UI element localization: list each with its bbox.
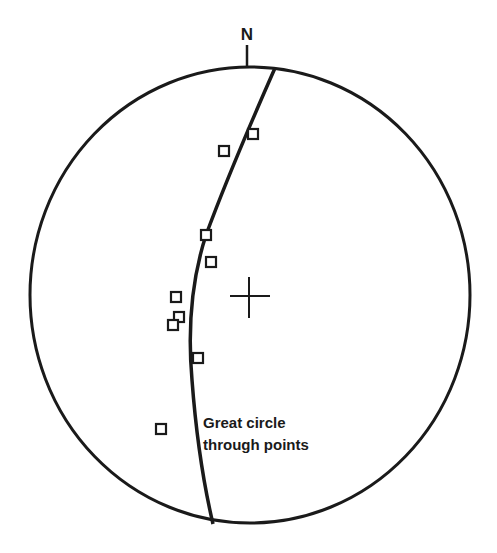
point-marker — [248, 129, 258, 139]
annotation-line-1: Great circle — [203, 414, 286, 431]
data-points — [156, 129, 258, 434]
point-marker — [206, 257, 216, 267]
point-marker — [156, 424, 166, 434]
point-marker — [168, 320, 178, 330]
point-marker — [171, 292, 181, 302]
point-marker — [219, 146, 229, 156]
north-label: N — [241, 25, 253, 44]
center-cross — [230, 277, 270, 318]
point-marker — [201, 230, 211, 240]
stereonet-diagram: N Great circle through points — [0, 0, 497, 553]
point-marker — [193, 353, 203, 363]
annotation-line-2: through points — [203, 436, 309, 453]
